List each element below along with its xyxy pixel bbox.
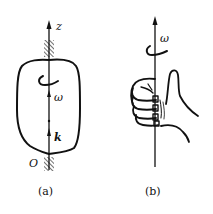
k-arrowhead-icon	[47, 128, 51, 136]
axis-dot	[48, 120, 50, 122]
right-hand-icon	[131, 70, 198, 142]
rotation-diagram: z ω k O (a) ω	[0, 0, 213, 214]
unit-vector-k-label: k	[54, 131, 62, 144]
top-bearing-hatch	[44, 40, 54, 57]
z-axis-arrowhead-icon	[47, 20, 52, 29]
figure-b: ω (b	[131, 16, 198, 198]
z-axis-label: z	[55, 20, 62, 33]
omega-arrowhead-icon	[47, 90, 51, 97]
bottom-bearing-hatch	[44, 157, 54, 171]
omega-label: ω	[54, 91, 63, 104]
caption-a: (a)	[38, 185, 53, 198]
origin-label: O	[29, 157, 38, 170]
figure-a: z ω k O (a)	[17, 20, 80, 198]
axis-arrowhead-icon	[153, 16, 158, 25]
rotation-curl-icon	[147, 46, 167, 55]
caption-b: (b)	[145, 185, 161, 198]
omega-label: ω	[160, 32, 169, 45]
